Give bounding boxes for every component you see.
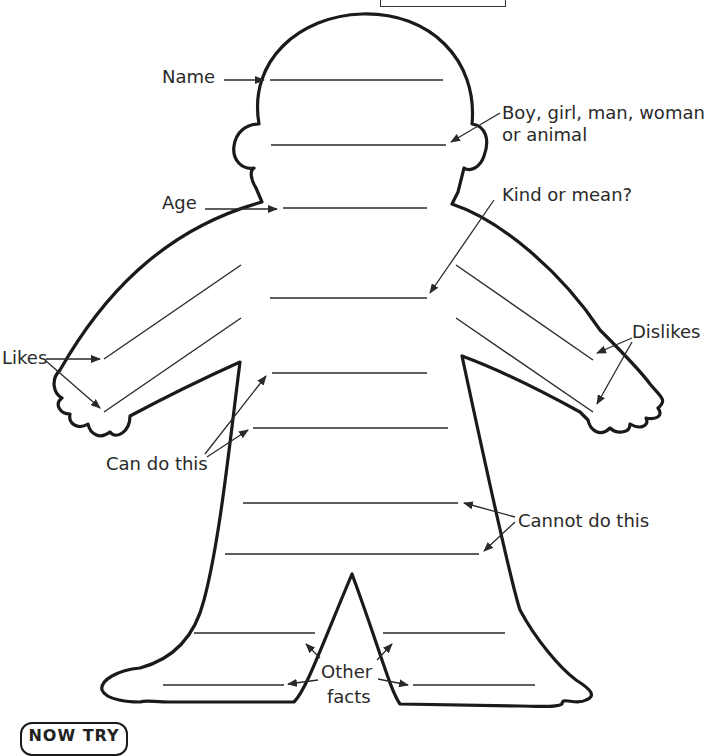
other-facts-label-line2: facts [327, 686, 371, 708]
likes-line-1 [104, 265, 241, 359]
other-arrow-left-2 [288, 680, 318, 684]
name-label: Name [162, 66, 215, 88]
age-label: Age [162, 192, 197, 214]
likes-label: Likes [2, 347, 47, 369]
kind-or-mean-label: Kind or mean? [502, 184, 632, 206]
can-do-label: Can do this [106, 453, 208, 475]
now-try-badge: NOW TRY [20, 722, 128, 756]
dislikes-label: Dislikes [632, 321, 700, 343]
cannot-do-label: Cannot do this [518, 510, 649, 532]
cannot-do-arrow-1 [464, 503, 515, 517]
identity-label-line1: Boy, girl, man, woman [502, 102, 705, 124]
other-facts-label-line1: Other [321, 661, 372, 683]
identity-arrow [451, 113, 500, 142]
other-arrow-left-1 [306, 644, 320, 658]
identity-label-line2: or animal [502, 124, 587, 146]
dislikes-line-2 [456, 318, 593, 412]
dislikes-line-1 [456, 265, 593, 360]
likes-line-2 [104, 318, 241, 412]
kind-arrow [430, 200, 494, 293]
other-arrow-right-2 [378, 679, 408, 685]
